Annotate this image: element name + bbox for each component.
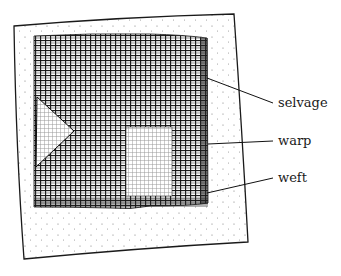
- rectangle-patch: [126, 127, 172, 196]
- label-warp: warp: [278, 134, 311, 147]
- label-weft: weft: [278, 171, 307, 184]
- selvage-edge: [200, 38, 208, 204]
- fabric-diagram: selvage warp weft: [0, 0, 341, 276]
- label-selvage: selvage: [278, 96, 328, 109]
